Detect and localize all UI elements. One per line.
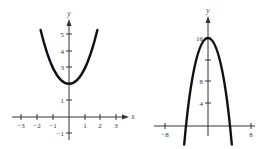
right-y-axis-label: y	[205, 6, 210, 15]
left-x-tick-label: −3	[17, 122, 25, 130]
left-x-axis-label: x	[130, 112, 135, 121]
left-y-tick-label: 4	[61, 48, 65, 56]
left-x-tick-label: 1	[83, 122, 87, 130]
left-x-tick-label: 3	[114, 122, 118, 130]
right-x-tick-label: 8	[249, 131, 253, 139]
left-y-tick-label: 5	[61, 31, 65, 39]
left-y-axis-label: y	[66, 9, 71, 18]
left-graph: −3 −2 −1 1 2 3 1 3 4 5 −1 y x	[12, 9, 135, 140]
left-x-axis-arrow-icon	[122, 115, 129, 120]
left-y-axis-arrow-icon	[67, 19, 72, 26]
right-y-axis-arrow-icon	[206, 16, 211, 23]
left-x-tick-label: −2	[33, 122, 41, 130]
left-y-tick-label: −1	[57, 130, 65, 138]
figure: −3 −2 −1 1 2 3 1 3 4 5 −1 y x	[0, 0, 259, 149]
left-y-tick-label: 1	[61, 97, 65, 105]
right-graph: −8 8 4 8 16 y	[154, 6, 255, 145]
right-x-tick-label: −8	[161, 131, 169, 139]
left-x-tick-label: 2	[98, 122, 102, 130]
left-y-tick-label: 3	[61, 64, 65, 72]
right-y-tick-label: 8	[200, 78, 204, 86]
right-y-tick-label: 4	[200, 100, 204, 108]
